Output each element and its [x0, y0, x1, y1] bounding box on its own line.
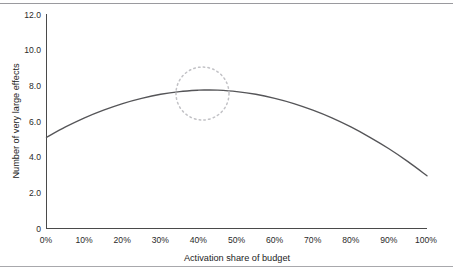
x-tick-label: 90%	[380, 235, 398, 245]
x-tick-label: 50%	[228, 235, 246, 245]
x-tick-label: 10%	[75, 235, 93, 245]
data-series-curve	[47, 90, 428, 176]
x-tick-label: 80%	[342, 235, 360, 245]
x-tick-label: 70%	[304, 235, 322, 245]
x-axis-title: Activation share of budget	[184, 253, 291, 263]
x-tick-label: 100%	[415, 235, 437, 245]
axis-lines	[47, 14, 428, 229]
y-tick-label: 10.0	[24, 45, 41, 55]
y-axis-tick-labels: 12.0 10.0 8.0 6.0 4.0 2.0 0	[24, 10, 41, 234]
y-tick-label: 2.0	[29, 188, 41, 198]
x-tick-label: 30%	[152, 235, 170, 245]
chart-figure: 12.0 10.0 8.0 6.0 4.0 2.0 0 0% 10% 20% 3…	[0, 0, 453, 274]
y-tick-label: 6.0	[29, 117, 41, 127]
y-tick-label: 8.0	[29, 81, 41, 91]
y-tick-label: 12.0	[24, 10, 41, 20]
peak-highlight-circle	[176, 67, 229, 120]
x-tick-label: 40%	[190, 235, 208, 245]
y-axis-title: Number of very large effects	[11, 63, 21, 179]
y-tick-label: 0	[36, 224, 41, 234]
bottom-divider-rule	[0, 266, 453, 267]
x-tick-label: 0%	[40, 235, 53, 245]
x-tick-label: 20%	[114, 235, 132, 245]
x-axis-tick-labels: 0% 10% 20% 30% 40% 50% 60% 70% 80% 90% 1…	[40, 235, 438, 245]
x-tick-label: 60%	[266, 235, 284, 245]
chart-plot-area: 12.0 10.0 8.0 6.0 4.0 2.0 0 0% 10% 20% 3…	[0, 0, 453, 274]
y-tick-label: 4.0	[29, 152, 41, 162]
